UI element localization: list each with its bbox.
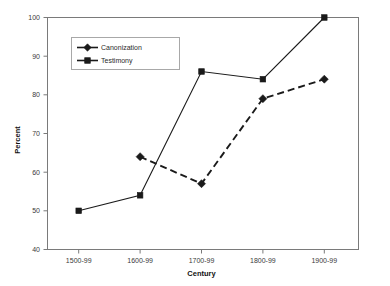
x-tick-label: 1800-99 — [250, 257, 276, 264]
testimony-point-marker — [76, 208, 82, 214]
legend-label-canonization: Canonization — [101, 44, 142, 51]
testimony-point-marker — [260, 76, 266, 82]
y-tick-label: 90 — [32, 53, 40, 60]
x-tick-label: 1700-99 — [189, 257, 215, 264]
square-marker-icon — [85, 58, 91, 64]
y-tick-label: 100 — [28, 14, 40, 21]
legend-label-testimony: Testimony — [101, 57, 133, 65]
legend-entry-canonization[interactable]: Canonization — [77, 44, 142, 52]
y-tick-label: 60 — [32, 169, 40, 176]
y-tick-label: 70 — [32, 130, 40, 137]
chart-legend[interactable]: Canonization Testimony — [72, 38, 180, 70]
testimony-point-marker — [137, 193, 143, 199]
y-axis-title: Percent — [13, 126, 22, 154]
x-axis-tick-labels: 1500-99 1600-99 1700-99 1800-99 1900-99 — [66, 257, 337, 264]
y-axis-tick-labels: 100 90 80 70 60 50 40 — [28, 14, 40, 253]
x-axis-title: Century — [187, 269, 216, 278]
chart-container: 100 90 80 70 60 50 40 Percent 1500-99 16… — [0, 0, 390, 286]
y-tick-label: 80 — [32, 91, 40, 98]
x-tick-label: 1600-99 — [127, 257, 153, 264]
testimony-point-marker — [322, 15, 328, 21]
y-axis-ticks — [44, 18, 48, 250]
y-tick-label: 50 — [32, 207, 40, 214]
legend-box — [72, 38, 180, 70]
x-tick-label: 1900-99 — [311, 257, 337, 264]
x-axis-ticks — [79, 250, 325, 254]
line-chart-svg: 100 90 80 70 60 50 40 Percent 1500-99 16… — [0, 0, 390, 286]
testimony-point-marker — [199, 69, 205, 75]
y-tick-label: 40 — [32, 246, 40, 253]
x-tick-label: 1500-99 — [66, 257, 92, 264]
